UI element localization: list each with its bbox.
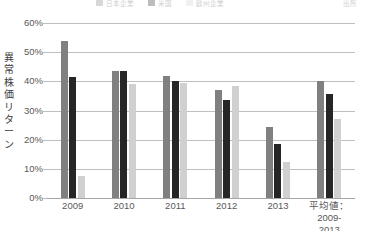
bar — [326, 94, 333, 198]
plot-area: 60%50%40%30%20%10%0% — [47, 23, 355, 198]
bar — [334, 119, 341, 198]
legend-swatch-series-1 — [96, 0, 103, 6]
bar — [61, 41, 68, 199]
bar-group — [47, 23, 98, 198]
bar — [266, 127, 273, 198]
y-axis-tick-label: 50% — [1, 47, 43, 57]
chart-source-note: 出所 — [343, 0, 357, 7]
y-axis-tick-label: 20% — [1, 135, 43, 145]
bar — [223, 100, 230, 198]
legend-item: 日本企業 — [96, 0, 134, 7]
y-axis-title-char: 常 — [2, 64, 15, 76]
x-axis-label: 2012 — [201, 200, 252, 231]
legend-label-series-1: 日本企業 — [106, 0, 134, 7]
bar — [274, 144, 281, 198]
x-axis-label: 2011 — [150, 200, 201, 231]
bar — [129, 84, 136, 198]
bar-group — [252, 23, 303, 198]
x-axis-label: 平均値：2009- 2013 — [304, 200, 355, 231]
bar — [283, 162, 290, 198]
x-axis-labels: 20092010201120122013平均値：2009- 2013 — [47, 200, 355, 231]
bar-group — [150, 23, 201, 198]
x-axis-label: 2013 — [252, 200, 303, 231]
x-axis-label: 2010 — [98, 200, 149, 231]
y-axis-title-char: タ — [2, 114, 15, 126]
bar — [69, 77, 76, 198]
bar — [317, 81, 324, 198]
bar — [172, 81, 179, 198]
bar-groups — [47, 23, 355, 198]
legend-swatch-series-3 — [186, 0, 193, 6]
legend-label-series-2: 米国 — [158, 0, 172, 7]
bar-group — [201, 23, 252, 198]
bar — [180, 83, 187, 198]
bar — [120, 71, 127, 198]
bar — [78, 176, 85, 198]
bar-chart: 日本企業 米国 欧州企業 出所 異常株価リターン 60%50%40%30%20%… — [0, 0, 367, 231]
bar — [232, 86, 239, 198]
legend-swatch-series-2 — [148, 0, 155, 6]
bar — [112, 71, 119, 198]
bar-group — [304, 23, 355, 198]
y-axis-tick-label: 10% — [1, 164, 43, 174]
chart-legend: 日本企業 米国 欧州企業 出所 — [0, 0, 367, 7]
y-axis-tick-label: 0% — [1, 193, 43, 203]
x-axis-label: 2009 — [47, 200, 98, 231]
y-axis-title-char: 価 — [2, 89, 15, 101]
gridline — [47, 198, 355, 199]
bar-group — [98, 23, 149, 198]
legend-label-series-3: 欧州企業 — [196, 0, 224, 7]
y-axis-tick-mark — [43, 198, 47, 199]
legend-item: 欧州企業 — [186, 0, 224, 7]
legend-item: 米国 — [148, 0, 172, 7]
y-axis-tick-label: 40% — [1, 76, 43, 86]
bar — [163, 76, 170, 199]
y-axis-tick-label: 60% — [1, 18, 43, 28]
bar — [215, 90, 222, 198]
y-axis-tick-label: 30% — [1, 106, 43, 116]
